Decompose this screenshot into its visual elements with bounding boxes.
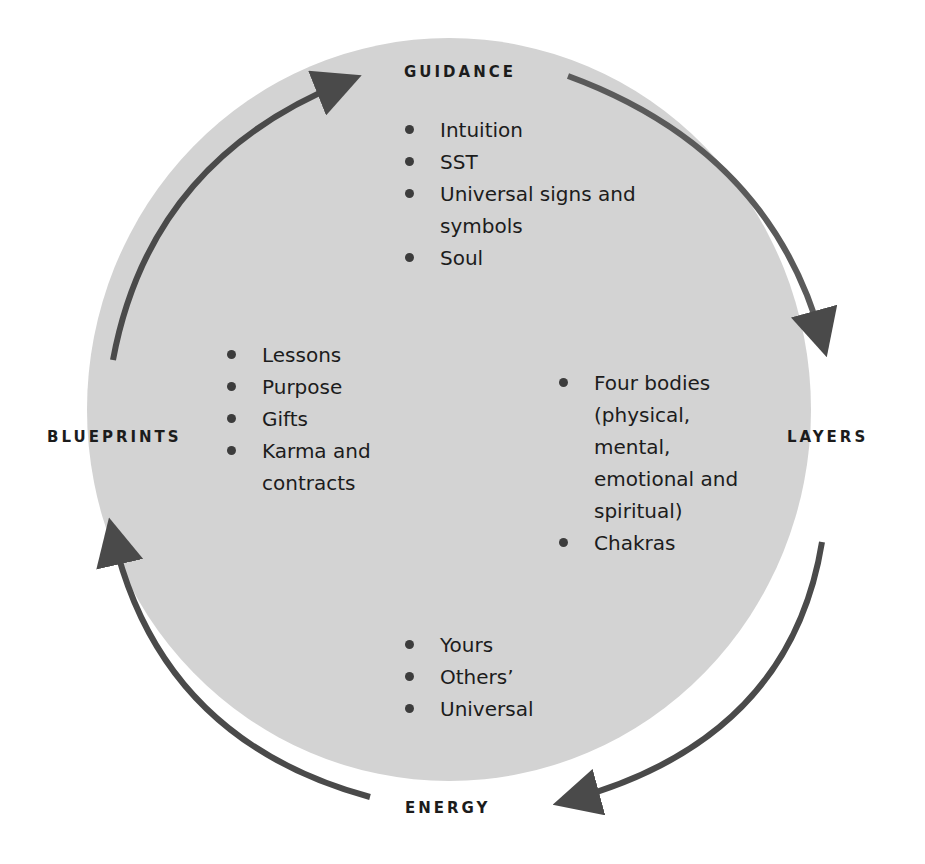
list-item: Universal	[402, 693, 602, 725]
list-item: Four bodies (physical, mental, emotional…	[556, 367, 764, 527]
arrow-blueprints-to-guidance-icon	[113, 82, 345, 360]
list-item: Universal signs and symbols	[402, 178, 640, 242]
list-item: Chakras	[556, 527, 756, 559]
layers-list: Four bodies (physical, mental, emotional…	[556, 367, 756, 559]
energy-list: Yours Others’ Universal	[402, 629, 602, 725]
bullet-icon	[405, 189, 414, 198]
bullet-icon	[227, 414, 236, 423]
list-item: Yours	[402, 629, 602, 661]
bullet-icon	[405, 253, 414, 262]
cycle-diagram: GUIDANCE Intuition SST Universal signs a…	[0, 0, 925, 864]
arrow-layers-to-energy-icon	[570, 542, 822, 800]
bullet-icon	[227, 446, 236, 455]
bullet-icon	[405, 672, 414, 681]
bullet-icon	[405, 704, 414, 713]
section-title-energy: ENERGY	[405, 799, 490, 817]
list-item: SST	[402, 146, 642, 178]
bullet-icon	[405, 640, 414, 649]
bullet-icon	[559, 378, 568, 387]
section-title-guidance: GUIDANCE	[404, 63, 516, 81]
bullet-icon	[405, 125, 414, 134]
list-item: Lessons	[224, 339, 394, 371]
list-item: Karma and contracts	[224, 435, 402, 499]
section-title-blueprints: BLUEPRINTS	[47, 428, 182, 446]
bullet-icon	[405, 157, 414, 166]
guidance-list: Intuition SST Universal signs and symbol…	[402, 114, 642, 274]
list-item: Purpose	[224, 371, 394, 403]
blueprints-list: Lessons Purpose Gifts Karma and contract…	[224, 339, 394, 499]
bullet-icon	[227, 350, 236, 359]
section-title-layers: LAYERS	[787, 428, 868, 446]
list-item: Intuition	[402, 114, 642, 146]
bullet-icon	[227, 382, 236, 391]
arrow-energy-to-blueprints-icon	[113, 535, 370, 797]
list-item: Others’	[402, 661, 602, 693]
bullet-icon	[559, 538, 568, 547]
list-item: Gifts	[224, 403, 394, 435]
list-item: Soul	[402, 242, 642, 274]
